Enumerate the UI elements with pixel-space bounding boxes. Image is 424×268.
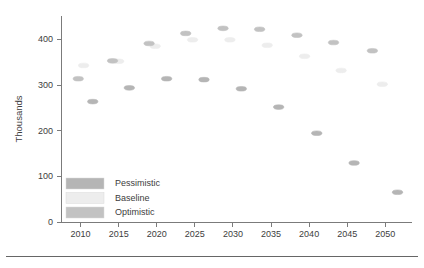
data-point: [73, 76, 83, 81]
data-point: [199, 77, 209, 82]
data-point: [273, 105, 283, 110]
data-point: [187, 38, 197, 43]
x-axis-ticks: 201020152020202520302035204020452050: [71, 223, 396, 240]
data-point: [225, 38, 235, 43]
series-pessimistic: [88, 76, 403, 194]
data-point: [392, 190, 402, 195]
data-point: [336, 68, 346, 73]
y-tick-label: 400: [38, 34, 53, 44]
data-point: [262, 43, 272, 48]
data-point: [254, 27, 264, 32]
data-point: [299, 54, 309, 59]
legend-swatch-pessimistic: [66, 178, 104, 189]
y-axis-title: Thousands: [13, 95, 24, 142]
data-point: [88, 99, 98, 104]
chart-legend: PessimisticBaselineOptimistic: [66, 178, 161, 218]
data-point: [349, 161, 359, 166]
x-tick-label: 2020: [147, 229, 167, 239]
data-markers-layer: [73, 26, 403, 194]
chart-figure: 0100200300400 20102015202020252030203520…: [0, 0, 424, 268]
data-point: [78, 63, 88, 68]
data-point: [312, 131, 322, 136]
data-point: [328, 40, 338, 45]
legend-swatch-optimistic: [66, 207, 104, 218]
y-tick-label: 200: [38, 126, 53, 136]
x-tick-label: 2025: [185, 229, 205, 239]
data-point: [144, 41, 154, 46]
x-tick-label: 2015: [109, 229, 129, 239]
y-axis-ticks: 0100200300400: [38, 34, 62, 227]
data-point: [124, 86, 134, 91]
legend-label-baseline: Baseline: [115, 193, 150, 203]
data-point: [292, 33, 302, 38]
x-tick-label: 2050: [375, 229, 395, 239]
data-point: [218, 26, 228, 31]
x-tick-label: 2045: [337, 229, 357, 239]
data-point: [180, 31, 190, 36]
legend-label-optimistic: Optimistic: [115, 207, 155, 217]
x-tick-label: 2010: [71, 229, 91, 239]
y-tick-label: 100: [38, 171, 53, 181]
series-baseline: [78, 38, 387, 87]
data-point: [107, 59, 117, 64]
data-point: [377, 82, 387, 87]
data-point: [236, 86, 246, 91]
y-tick-label: 0: [48, 217, 53, 227]
y-tick-label: 300: [38, 80, 53, 90]
series-optimistic: [73, 26, 378, 81]
data-point: [367, 48, 377, 53]
scatter-chart: 0100200300400 20102015202020252030203520…: [0, 0, 424, 268]
x-tick-label: 2035: [261, 229, 281, 239]
data-point: [161, 76, 171, 81]
x-tick-label: 2030: [223, 229, 243, 239]
x-tick-label: 2040: [299, 229, 319, 239]
legend-swatch-baseline: [66, 193, 104, 204]
legend-label-pessimistic: Pessimistic: [115, 178, 161, 188]
